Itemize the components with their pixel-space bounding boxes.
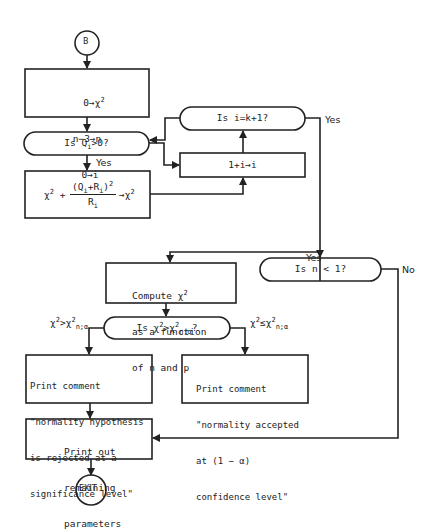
increment-text: 1+i→i — [180, 159, 305, 171]
exit-label: EXIT — [79, 484, 97, 493]
printout-text: Print out remaining parameters — [64, 422, 121, 529]
gt-label: χ2>χ2n;α — [50, 317, 88, 329]
n-yes-label: Yes — [306, 252, 321, 263]
init-text: 0→χ2 n−3→n 0→i — [25, 73, 149, 193]
q-yes-label: Yes — [96, 157, 111, 168]
le-label: χ2≤χ2n;α — [250, 317, 288, 329]
check-q-text: Is Qi>0? — [24, 137, 149, 149]
n-no-label: No — [402, 264, 415, 275]
start-label: B — [83, 37, 89, 46]
compare-text: Is χ2>χ2n;α? — [104, 322, 230, 334]
check-i-text: Is i=k+1? — [180, 112, 305, 124]
check-n-text: Is n < 1? — [260, 263, 381, 275]
accept-text: Print comment "normality accepted at (1 … — [196, 359, 299, 515]
i-yes-label: Yes — [325, 114, 340, 125]
accumulate-text: χ2 + (Qi+Ri)2 Ri →χ2 — [44, 181, 154, 253]
